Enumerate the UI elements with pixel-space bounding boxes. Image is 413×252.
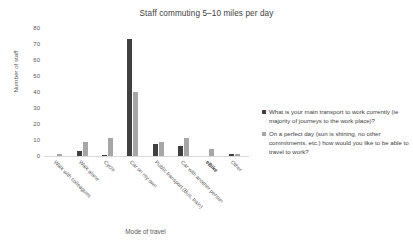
bar-group xyxy=(146,28,171,156)
legend-label: On a perfect day (sun is shining, no oth… xyxy=(269,130,410,156)
bar-chart: Staff commuting 5–10 miles per day Numbe… xyxy=(0,0,413,252)
x-tick-cell: Walk alone xyxy=(69,157,94,217)
y-axis-tick-label: 30 xyxy=(33,105,40,111)
x-tick-cell: Car with another person xyxy=(171,157,196,217)
legend-label: What is your main transport to work curr… xyxy=(269,108,410,125)
x-axis-tick-label: Cycle xyxy=(103,159,117,173)
bar-group xyxy=(44,28,69,156)
y-axis-tick-label: 10 xyxy=(33,137,40,143)
bar xyxy=(127,39,132,156)
y-axis-tick-label: 20 xyxy=(33,121,40,127)
x-tick-cell: Cycle xyxy=(95,157,120,217)
bar xyxy=(178,146,183,156)
y-axis-tick-label: 40 xyxy=(33,89,40,95)
chart-legend: What is your main transport to work curr… xyxy=(262,108,410,161)
chart-title: Staff commuting 5–10 miles per day xyxy=(0,9,413,18)
bar-group xyxy=(222,28,247,156)
bar xyxy=(133,92,138,156)
x-axis-tick-labels: Walk with colleaguesWalk aloneCycleCar o… xyxy=(44,157,247,217)
legend-item[interactable]: What is your main transport to work curr… xyxy=(262,108,410,125)
bar xyxy=(83,142,88,156)
x-axis-title: Mode of travel xyxy=(44,228,247,235)
y-axis-tick-label: 0 xyxy=(37,153,40,159)
bar xyxy=(153,144,158,156)
y-axis-title: Number of staff xyxy=(12,35,19,109)
y-axis-tick-label: 50 xyxy=(33,73,40,79)
y-axis-tick-label: 80 xyxy=(33,25,40,31)
bar-group xyxy=(95,28,120,156)
plot-area: 80706050403020100 xyxy=(44,28,247,156)
bar xyxy=(159,142,164,156)
bar-groups xyxy=(44,28,247,156)
y-axis-tick-label: 70 xyxy=(33,41,40,47)
legend-swatch-icon xyxy=(262,132,266,136)
x-tick-cell: Car on my own xyxy=(120,157,145,217)
x-axis-tick-label: Other xyxy=(230,159,244,173)
x-tick-cell: Public transport (Bus, train) xyxy=(146,157,171,217)
legend-swatch-icon xyxy=(262,110,266,114)
bar xyxy=(184,138,189,156)
legend-item[interactable]: On a perfect day (sun is shining, no oth… xyxy=(262,130,410,156)
bar-group xyxy=(196,28,221,156)
bar-group xyxy=(171,28,196,156)
x-tick-cell: Other xyxy=(222,157,247,217)
x-axis-tick-label: eBike xyxy=(205,159,219,173)
y-axis-tick-label: 60 xyxy=(33,57,40,63)
x-tick-cell: Walk with colleagues xyxy=(44,157,69,217)
bar-group xyxy=(69,28,94,156)
bar xyxy=(108,138,113,156)
bar-group xyxy=(120,28,145,156)
x-tick-cell: eBike xyxy=(196,157,221,217)
